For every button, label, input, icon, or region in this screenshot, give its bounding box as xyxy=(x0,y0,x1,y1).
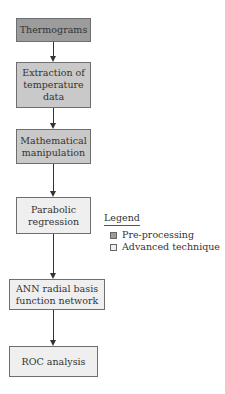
arrowhead-icon xyxy=(50,340,56,346)
arrowhead-icon xyxy=(50,273,56,279)
node-label-line: Parabolic xyxy=(31,204,76,216)
node-label-line: ANN radial basis xyxy=(16,283,98,295)
node-extraction: Extraction of temperature data xyxy=(16,62,91,108)
node-label-line: Mathematical xyxy=(20,135,87,147)
legend-item-pre-processing: Pre-processing xyxy=(110,229,194,241)
swatch-light-icon xyxy=(110,244,117,251)
connector-line xyxy=(53,164,54,191)
arrowhead-icon xyxy=(50,191,56,197)
legend-label: Advanced technique xyxy=(122,241,220,253)
node-mathematical-manipulation: Mathematical manipulation xyxy=(16,129,91,164)
legend-title: Legend xyxy=(104,212,140,226)
node-label: ROC analysis xyxy=(22,356,86,368)
node-parabolic-regression: Parabolic regression xyxy=(16,197,91,234)
node-label-line: function network xyxy=(16,295,99,307)
swatch-dark-icon xyxy=(110,232,117,239)
node-label-line: data xyxy=(43,91,64,103)
legend-item-advanced-technique: Advanced technique xyxy=(110,241,220,253)
connector-line xyxy=(53,234,54,273)
node-label-line: Extraction of xyxy=(22,67,85,79)
arrowhead-icon xyxy=(50,56,56,62)
node-thermograms: Thermograms xyxy=(16,18,91,42)
node-label-line: temperature xyxy=(23,79,83,91)
connector-line xyxy=(53,108,54,123)
connector-line xyxy=(53,42,54,56)
arrowhead-icon xyxy=(50,123,56,129)
connector-line xyxy=(53,310,54,340)
node-label-line: regression xyxy=(28,216,79,228)
node-label-line: manipulation xyxy=(22,147,85,159)
node-ann-rbf-network: ANN radial basis function network xyxy=(9,279,105,310)
node-label: Thermograms xyxy=(20,24,88,36)
legend-label: Pre-processing xyxy=(122,229,194,241)
node-roc-analysis: ROC analysis xyxy=(9,346,98,377)
